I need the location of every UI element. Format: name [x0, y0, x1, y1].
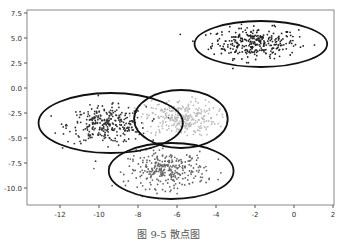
- data-point: [222, 116, 224, 118]
- data-point: [267, 40, 269, 42]
- data-point: [95, 117, 97, 119]
- data-point: [186, 125, 188, 127]
- data-point: [197, 102, 199, 104]
- data-point: [138, 163, 140, 165]
- data-point: [98, 110, 100, 112]
- data-point: [164, 164, 166, 166]
- data-point: [89, 119, 91, 121]
- data-point: [148, 173, 150, 175]
- x-tick-label: -8: [135, 211, 142, 219]
- data-point: [285, 48, 287, 50]
- data-point: [200, 122, 202, 124]
- data-point: [206, 170, 208, 172]
- data-point: [86, 119, 88, 121]
- data-point: [176, 128, 178, 130]
- figure-caption: 图 9-5 散点图: [0, 226, 337, 241]
- data-point: [248, 35, 250, 37]
- data-point: [199, 165, 201, 167]
- data-point: [184, 172, 186, 174]
- data-point: [180, 159, 182, 161]
- data-point: [195, 120, 197, 122]
- data-point: [230, 48, 232, 50]
- data-point: [258, 29, 260, 31]
- data-point: [201, 173, 203, 175]
- data-point: [188, 104, 190, 106]
- data-point: [193, 119, 195, 121]
- data-point: [146, 162, 148, 164]
- y-tick-label: -7.5: [8, 160, 22, 168]
- data-point: [150, 107, 152, 109]
- y-tick-label: -2.5: [8, 110, 22, 118]
- data-point: [253, 30, 255, 32]
- data-point: [143, 132, 145, 134]
- data-point: [250, 37, 252, 39]
- data-point: [118, 144, 120, 146]
- data-point: [108, 117, 110, 119]
- data-point: [131, 172, 133, 174]
- data-point: [141, 169, 143, 171]
- data-point: [179, 33, 181, 35]
- data-point: [184, 184, 186, 186]
- data-point: [142, 123, 144, 125]
- data-point: [223, 43, 225, 45]
- data-point: [175, 160, 177, 162]
- data-point: [121, 112, 123, 114]
- data-point: [200, 113, 202, 115]
- data-point: [205, 105, 207, 107]
- data-point: [293, 45, 295, 47]
- data-point: [168, 128, 170, 130]
- data-point: [179, 166, 181, 168]
- data-point: [162, 116, 164, 118]
- data-point: [254, 53, 256, 55]
- data-point: [254, 42, 256, 44]
- data-point: [235, 32, 237, 34]
- data-point: [273, 33, 275, 35]
- data-point: [187, 174, 189, 176]
- data-point: [172, 179, 174, 181]
- data-point: [167, 160, 169, 162]
- data-point: [261, 50, 263, 52]
- data-point: [114, 119, 116, 121]
- data-point: [291, 43, 293, 45]
- data-point: [97, 119, 99, 121]
- data-point: [112, 110, 114, 112]
- data-point: [110, 109, 112, 111]
- data-point: [137, 110, 139, 112]
- data-point: [103, 135, 105, 137]
- data-point: [186, 107, 188, 109]
- data-point: [197, 110, 199, 112]
- data-point: [245, 45, 247, 47]
- data-point: [176, 120, 178, 122]
- data-point: [209, 109, 211, 111]
- data-point: [164, 160, 166, 162]
- data-point: [205, 99, 207, 101]
- data-point: [274, 26, 276, 28]
- data-point: [205, 182, 207, 184]
- data-point: [188, 115, 190, 117]
- data-point: [133, 155, 135, 157]
- data-point: [119, 119, 121, 121]
- data-point: [194, 122, 196, 124]
- data-point: [256, 55, 258, 57]
- data-point: [94, 123, 96, 125]
- data-point: [74, 127, 76, 129]
- data-point: [246, 27, 248, 29]
- data-point: [188, 183, 190, 185]
- data-point: [192, 40, 194, 42]
- data-point: [75, 133, 77, 135]
- data-point: [98, 132, 100, 134]
- data-point: [241, 51, 243, 53]
- data-point: [300, 46, 302, 48]
- data-point: [198, 171, 200, 173]
- data-point: [128, 138, 130, 140]
- data-point: [200, 180, 202, 182]
- data-point: [220, 172, 222, 174]
- data-point: [104, 122, 106, 124]
- data-point: [234, 41, 236, 43]
- data-point: [177, 115, 179, 117]
- data-point: [176, 193, 178, 195]
- data-point: [150, 126, 152, 128]
- data-point: [253, 25, 255, 27]
- data-point: [178, 100, 180, 102]
- data-point: [152, 170, 154, 172]
